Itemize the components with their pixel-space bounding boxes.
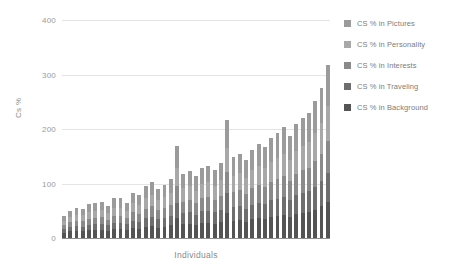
- bar-segment: [169, 179, 173, 193]
- bar-segment: [320, 88, 324, 123]
- bar-segment: [288, 200, 292, 217]
- bar-segment: [137, 195, 141, 205]
- bar-segment: [112, 216, 116, 223]
- bar-segment: [194, 215, 198, 225]
- bar-segment: [313, 101, 317, 133]
- bar-segment: [276, 158, 280, 179]
- bar: [269, 138, 273, 238]
- bar-segment: [225, 120, 229, 147]
- bar-segment: [175, 218, 179, 238]
- legend-item-3[interactable]: CS % in Traveling: [344, 77, 462, 95]
- bar-segment: [263, 204, 267, 219]
- bar-segment: [150, 182, 154, 195]
- bar-segment: [137, 214, 141, 222]
- bar-segment: [206, 211, 210, 223]
- legend-swatch-icon: [344, 83, 351, 90]
- bar-segment: [313, 187, 317, 210]
- y-tick-label-300: 300: [10, 70, 56, 79]
- bar-segment: [156, 189, 160, 200]
- bar-segment: [244, 209, 248, 222]
- bar-segment: [200, 211, 204, 223]
- bar: [206, 166, 210, 238]
- y-tick-label-200: 200: [10, 125, 56, 134]
- y-axis-title: Cs %: [14, 98, 23, 118]
- legend-item-0[interactable]: CS % in Pictures: [344, 14, 462, 32]
- bar-series-group: [62, 20, 330, 238]
- bar-segment: [181, 174, 185, 189]
- bar-segment: [232, 157, 236, 176]
- bar: [93, 203, 97, 238]
- bar-segment: [106, 206, 110, 213]
- chart-legend: CS % in PicturesCS % in PersonalityCS % …: [344, 14, 462, 119]
- bar-segment: [282, 197, 286, 216]
- bar: [100, 202, 104, 238]
- bar-segment: [206, 182, 210, 197]
- bar-segment: [244, 178, 248, 194]
- bar-segment: [288, 181, 292, 200]
- bar-segment: [257, 144, 261, 166]
- bar-segment: [213, 186, 217, 200]
- bar-segment: [263, 168, 267, 187]
- bar-segment: [112, 198, 116, 207]
- bar-segment: [213, 170, 217, 186]
- bar-segment: [156, 210, 160, 219]
- legend-swatch-icon: [344, 41, 351, 48]
- bar-segment: [320, 123, 324, 154]
- bar: [125, 203, 129, 238]
- bar-segment: [301, 170, 305, 192]
- bar-segment: [131, 203, 135, 212]
- bar-segment: [313, 133, 317, 161]
- bar-segment: [294, 174, 298, 195]
- bar-segment: [288, 160, 292, 181]
- bar-segment: [313, 210, 317, 238]
- bar-segment: [244, 194, 248, 209]
- bar-segment: [320, 181, 324, 206]
- bar-segment: [244, 222, 248, 238]
- bar: [320, 88, 324, 238]
- bar-segment: [326, 65, 330, 106]
- bar-segment: [269, 217, 273, 238]
- bar: [75, 208, 79, 238]
- bar-segment: [181, 213, 185, 224]
- bar-segment: [169, 193, 173, 205]
- x-axis-title: Individuals: [62, 250, 330, 260]
- bar-segment: [181, 188, 185, 201]
- legend-item-4[interactable]: CS % in Background: [344, 98, 462, 116]
- bar-segment: [225, 148, 229, 172]
- bar-segment: [194, 176, 198, 190]
- bar-segment: [238, 190, 242, 206]
- bar: [244, 160, 248, 238]
- bar-segment: [144, 227, 148, 238]
- bar-segment: [269, 162, 273, 182]
- legend-item-label: CS % in Traveling: [357, 82, 418, 91]
- bar-segment: [163, 185, 167, 198]
- bar-segment: [169, 225, 173, 238]
- bar-segment: [326, 202, 330, 238]
- bar: [112, 198, 116, 238]
- bar-segment: [301, 118, 305, 146]
- legend-item-2[interactable]: CS % in Interests: [344, 56, 462, 74]
- bar-segment: [313, 161, 317, 187]
- legend-item-label: CS % in Interests: [357, 61, 417, 70]
- bar: [188, 171, 192, 238]
- bar: [163, 185, 167, 238]
- bar: [81, 209, 85, 238]
- bar-segment: [150, 206, 154, 216]
- legend-item-1[interactable]: CS % in Personality: [344, 35, 462, 53]
- bar-segment: [225, 172, 229, 194]
- bar: [294, 124, 298, 238]
- bar-segment: [257, 166, 261, 185]
- bar: [213, 170, 217, 238]
- bar-segment: [100, 210, 104, 218]
- bar-segment: [131, 221, 135, 229]
- bar-segment: [232, 176, 236, 192]
- y-tick-label-400: 400: [10, 16, 56, 25]
- bar-segment: [150, 217, 154, 226]
- bar: [225, 120, 229, 238]
- bar-segment: [200, 198, 204, 211]
- bar-segment: [125, 211, 129, 218]
- bar-segment: [250, 188, 254, 204]
- bar-segment: [326, 141, 330, 173]
- bar-segment: [175, 168, 179, 187]
- bar-segment: [263, 187, 267, 204]
